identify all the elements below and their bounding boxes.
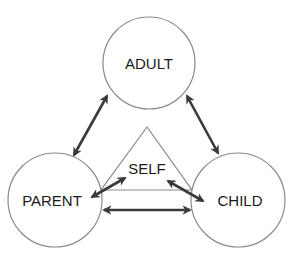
arrow-parent-adult bbox=[74, 96, 107, 155]
parent-label: PARENT bbox=[22, 192, 82, 209]
ego-state-diagram: ADULT PARENT CHILD SELF bbox=[0, 0, 293, 262]
arrow-adult-child bbox=[187, 96, 218, 153]
child-label: CHILD bbox=[217, 192, 262, 209]
self-label: SELF bbox=[128, 160, 166, 177]
adult-label: ADULT bbox=[125, 55, 173, 72]
self-triangle bbox=[101, 127, 192, 190]
